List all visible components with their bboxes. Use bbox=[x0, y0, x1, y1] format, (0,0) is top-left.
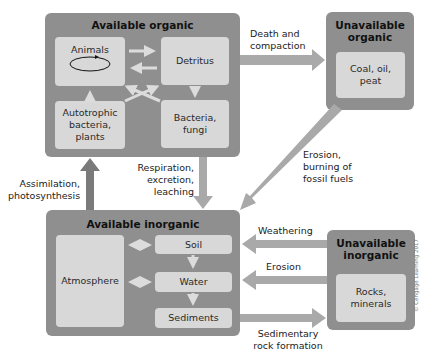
respiration-label: Respiration,excretion,leaching bbox=[127, 162, 194, 198]
copyright-text: © Cengage Learning 2017 bbox=[413, 239, 419, 312]
cycle-icon bbox=[70, 55, 110, 71]
sedimentary-label: Sedimentaryrock formation bbox=[252, 328, 324, 352]
erosion-fossil-label: Erosion,burning offossil fuels bbox=[303, 149, 353, 185]
connecting-arrows bbox=[193, 49, 342, 328]
assimilation-arrow bbox=[80, 158, 100, 210]
erosion-label: Erosion bbox=[266, 261, 301, 273]
assimilation-label: Assimilation,photosynthesis bbox=[8, 178, 80, 202]
internal-organic-arrows bbox=[90, 51, 195, 101]
weathering-label: Weathering bbox=[258, 225, 313, 237]
death-label: Death andcompaction bbox=[250, 28, 306, 52]
internal-inorganic-arrows bbox=[134, 245, 193, 300]
